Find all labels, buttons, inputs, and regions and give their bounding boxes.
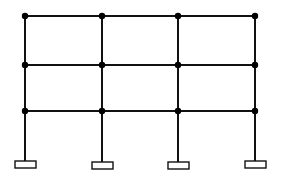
columns (25, 16, 255, 162)
joint-node-icon (175, 108, 181, 114)
fixed-support-icon (92, 162, 113, 169)
joint-node-icon (252, 62, 258, 68)
joint-node-icon (22, 108, 28, 114)
joint-node-icon (175, 62, 181, 68)
joint-node-icon (175, 13, 181, 19)
fixed-support-icon (245, 161, 266, 168)
joint-node-icon (252, 108, 258, 114)
joint-node-icon (99, 13, 105, 19)
joint-node-icon (99, 108, 105, 114)
fixed-support-icon (15, 161, 36, 168)
joint-node-icon (22, 13, 28, 19)
joint-node-icon (22, 62, 28, 68)
frame-diagram (0, 0, 282, 179)
rigid-joints (22, 13, 258, 114)
beams (25, 16, 255, 111)
fixed-support-icon (168, 162, 189, 169)
joint-node-icon (252, 13, 258, 19)
joint-node-icon (99, 62, 105, 68)
footing-supports (15, 161, 266, 169)
